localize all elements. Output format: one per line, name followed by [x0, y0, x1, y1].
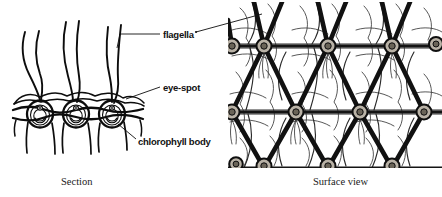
figure-root: flagella eye-spot chlorophyll body Secti… — [0, 0, 442, 197]
surface-node — [385, 39, 400, 54]
label-chlorophyll-body: chlorophyll body — [138, 137, 211, 147]
surface-panel — [225, 2, 442, 174]
figure-artwork — [0, 0, 442, 197]
leader-eyespot — [126, 87, 160, 99]
surface-node — [417, 105, 432, 120]
surface-node — [429, 37, 442, 51]
section-cell — [99, 101, 125, 128]
section-cell — [63, 101, 89, 128]
section-cell — [27, 101, 53, 128]
surface-node — [321, 159, 336, 174]
caption-surface-view: Surface view — [313, 177, 368, 188]
section-cells — [27, 101, 125, 128]
surface-node — [385, 159, 400, 174]
surface-node — [225, 39, 240, 54]
surface-node — [321, 39, 336, 54]
caption-section: Section — [61, 177, 93, 188]
surface-node — [229, 157, 243, 171]
surface-node — [289, 105, 304, 120]
label-eye-spot: eye-spot — [163, 83, 200, 93]
surface-node — [225, 105, 240, 120]
leader-dot — [195, 31, 197, 33]
section-panel — [13, 21, 160, 154]
surface-node — [353, 105, 368, 120]
surface-node — [257, 159, 272, 174]
surface-struts — [228, 2, 424, 168]
section-flagella — [23, 21, 121, 103]
surface-node — [257, 39, 272, 54]
label-flagella: flagella — [163, 30, 194, 40]
